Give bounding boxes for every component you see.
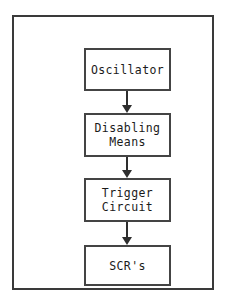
arrow-down-icon xyxy=(122,105,132,113)
flowchart-arrow-trigger-circuit-to-scrs xyxy=(121,222,133,245)
flowchart-node-label: Oscillator xyxy=(91,63,164,77)
arrow-shaft xyxy=(126,91,128,106)
flowchart-node-oscillator[interactable]: Oscillator xyxy=(84,48,171,91)
flowchart-node-disabling-means[interactable]: Disabling Means xyxy=(84,113,171,157)
flowchart-node-trigger-circuit[interactable]: Trigger Circuit xyxy=(84,178,171,222)
arrow-down-icon xyxy=(122,170,132,178)
flowchart-node-label: Disabling Means xyxy=(95,121,161,149)
flowchart-arrow-disabling-means-to-trigger-circuit xyxy=(121,157,133,178)
diagram-outer-frame: Oscillator Disabling Means Trigger Circu… xyxy=(12,15,214,290)
flowchart-node-label: SCR's xyxy=(109,259,146,273)
flowchart-arrow-oscillator-to-disabling-means xyxy=(121,91,133,113)
flowchart-node-label: Trigger Circuit xyxy=(102,186,153,214)
diagram-canvas: Oscillator Disabling Means Trigger Circu… xyxy=(0,0,227,303)
arrow-shaft xyxy=(126,222,128,238)
arrow-shaft xyxy=(126,157,128,171)
arrow-down-icon xyxy=(122,237,132,245)
flowchart-node-scrs[interactable]: SCR's xyxy=(84,245,171,286)
